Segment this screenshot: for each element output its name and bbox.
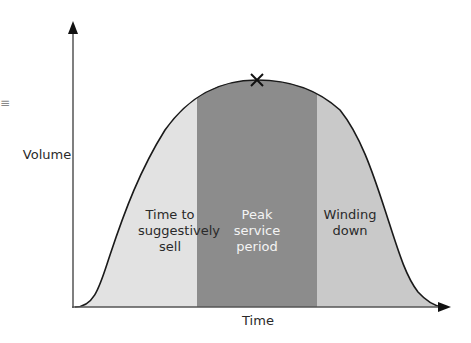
label-line: Peak	[222, 207, 292, 223]
x-axis-label: Time	[228, 313, 288, 329]
label-line: service	[222, 223, 292, 239]
region-peak-service	[197, 60, 317, 310]
y-axis-arrow-icon	[68, 21, 78, 34]
region-label-peak-service: Peak service period	[222, 207, 292, 255]
label-line: Time to	[138, 207, 202, 223]
region-winding-down	[317, 60, 447, 310]
label-line: suggestively	[138, 223, 202, 239]
region-suggestive-sell	[70, 60, 197, 310]
x-axis-arrow-icon	[438, 302, 451, 312]
label-line: down	[318, 223, 382, 239]
label-line: Winding	[318, 207, 382, 223]
phase-diagram	[0, 0, 471, 343]
label-line: period	[222, 239, 292, 255]
region-label-suggestive-sell: Time to suggestively sell	[138, 207, 202, 255]
label-line: sell	[138, 239, 202, 255]
region-label-winding-down: Winding down	[318, 207, 382, 239]
y-axis-label: Volume	[22, 147, 72, 163]
